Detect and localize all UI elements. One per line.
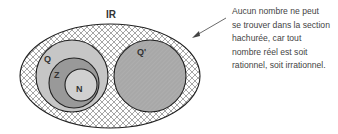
annotation-line: se trouver dans la section	[232, 19, 338, 33]
annotation-line: Aucun nombre ne peut	[232, 5, 338, 19]
annotation-text: Aucun nombre ne peut se trouver dans la …	[232, 5, 338, 73]
integers-label: Z	[54, 70, 60, 80]
pointer-arrow	[192, 18, 226, 38]
annotation-line: nombre réel est soit	[232, 46, 338, 60]
annotation-line: rationnel, soit irrationnel.	[232, 59, 338, 73]
irrationals-set-circle	[114, 40, 186, 112]
rationals-label: Q	[44, 54, 51, 64]
annotation-line: hachurée, car tout	[232, 32, 338, 46]
reals-label: IR	[106, 9, 117, 20]
naturals-label: N	[76, 84, 83, 94]
irrationals-label: Q'	[137, 47, 146, 57]
